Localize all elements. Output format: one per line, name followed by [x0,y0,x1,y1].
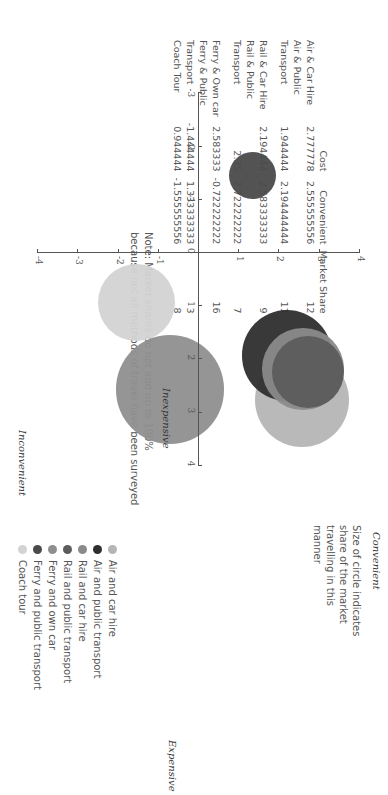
legend-label: Ferry and own car [47,560,58,650]
cost-axis [198,92,199,464]
bubble-chart: -3-2-101234-4-3-2-11234 [0,0,388,795]
y-tick [37,249,38,253]
x-tick-label: -3 [186,88,196,97]
legend-dot-icon [48,545,57,554]
rotated-page: CostConvenientMarket ShareAir & Car Hire… [0,0,388,795]
y-tick-label: 2 [275,256,285,262]
bubble-coach-tour [98,264,175,341]
y-tick-label: -4 [34,256,44,265]
x-tick-label: -1 [186,195,196,204]
y-tick-label: 3 [316,256,326,262]
legend-item: Rail and public transport [62,545,73,683]
inexpensive-label: Inexpensive [161,388,172,449]
legend-dot-icon [63,545,72,554]
y-tick [198,249,199,253]
legend-item: Coach tour [17,545,28,615]
legend-dot-icon [33,545,42,554]
y-tick-label: 1 [235,256,245,262]
bubble-rail-and-public-transport [272,336,344,408]
y-tick-label: 4 [356,256,366,262]
legend-dot-icon [108,545,117,554]
y-tick [238,249,239,253]
legend-item: Air and car hire [107,545,118,637]
y-tick-label: -3 [74,256,84,265]
expensive-label: Expensive [167,740,178,792]
x-tick [198,199,202,200]
y-tick-label: -2 [115,256,125,265]
x-tick [198,146,202,147]
legend-item: Air and public transport [92,545,103,678]
y-tick [77,249,78,253]
x-tick-label: -2 [186,142,196,151]
y-tick-label: -1 [155,256,165,265]
x-tick-label: 2 [186,354,196,360]
inconvenient-label: Inconvenient [17,430,28,496]
y-tick [319,249,320,253]
x-tick [198,358,202,359]
legend-label: Rail and public transport [62,560,73,683]
x-tick-label: 0 [186,248,196,254]
legend-label: Ferry and public transport [32,560,43,690]
convenient-label: Convenient [371,532,382,590]
legend-item: Ferry and public transport [32,545,43,690]
legend-dot-icon [93,545,102,554]
legend-label: Air and public transport [92,560,103,678]
y-tick [359,249,360,253]
legend-label: Coach tour [17,560,28,615]
legend-label: Rail and car hire [77,560,88,642]
legend-dot-icon [18,545,27,554]
y-tick [158,249,159,253]
bubble-ferry-and-public-transport [229,152,276,199]
x-tick-label: 4 [186,461,196,467]
x-tick [198,305,202,306]
legend-item: Ferry and own car [47,545,58,650]
legend-item: Rail and car hire [77,545,88,642]
legend-label: Air and car hire [107,560,118,637]
y-tick [118,249,119,253]
y-tick [278,249,279,253]
x-tick-label: 3 [186,408,196,414]
x-tick-label: 1 [186,301,196,307]
x-tick [198,412,202,413]
legend-dot-icon [78,545,87,554]
x-tick [198,92,202,93]
x-tick [198,465,202,466]
